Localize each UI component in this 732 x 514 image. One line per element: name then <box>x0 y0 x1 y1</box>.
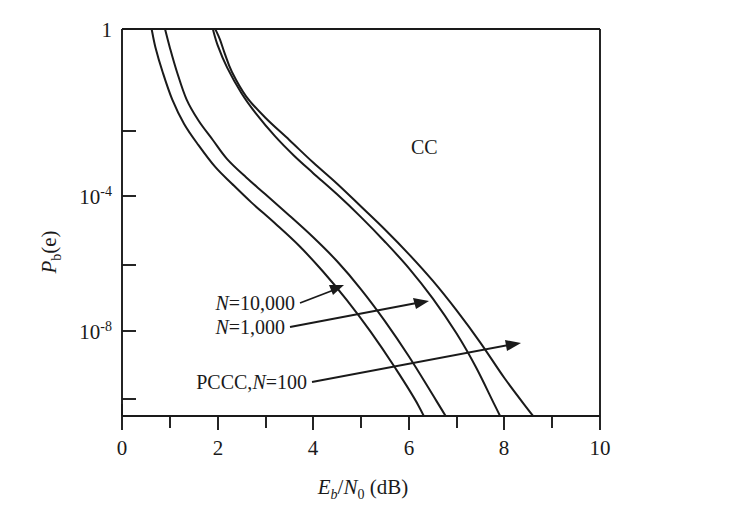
chart-canvas: 1 10-4 10-8 Pb(e) <box>0 0 732 514</box>
y-tick-label-1e-8: 10-8 <box>79 319 112 344</box>
curve-pccc-n-1-000 <box>165 29 485 486</box>
curve-label-cc: CC <box>411 136 438 158</box>
x-tick-label-4: 4 <box>308 436 319 460</box>
x-tick-label-6: 6 <box>404 436 415 460</box>
y-axis-title-group: Pb(e) <box>37 230 64 274</box>
curve-label-n-1000: N=1,000 <box>214 316 285 338</box>
arrowhead-n-1000 <box>413 298 429 309</box>
x-tick-label-8: 8 <box>499 436 510 460</box>
curve-pccc-n-10-000 <box>152 29 459 497</box>
leader-n-10000 <box>300 285 344 303</box>
y-axis-ticks <box>122 29 136 399</box>
annotation-leaders <box>290 285 521 382</box>
x-axis-title: Eb/N0 (dB) <box>317 475 408 502</box>
leader-n-1000 <box>290 298 429 327</box>
leader-pccc-n-100 <box>312 340 521 382</box>
x-axis-ticks <box>122 404 600 430</box>
x-tick-label-10: 10 <box>590 436 611 460</box>
x-tick-label-0: 0 <box>117 436 128 460</box>
x-tick-label-2: 2 <box>213 436 224 460</box>
bit-error-rate-chart: 1 10-4 10-8 Pb(e) <box>0 0 732 514</box>
y-tick-labels: 1 10-4 10-8 <box>79 18 112 344</box>
arrowhead-pccc-n-100 <box>505 340 521 351</box>
curve-label-n-10000: N=10,000 <box>214 292 295 314</box>
y-tick-label-1: 1 <box>102 18 113 42</box>
y-tick-label-1e-4: 10-4 <box>79 184 112 209</box>
x-tick-labels: 0 2 4 6 8 10 <box>117 436 611 460</box>
y-axis-title: Pb(e) <box>37 230 64 274</box>
curve-label-pccc-n-100: PCCC,N=100 <box>196 371 307 393</box>
plot-frame <box>122 29 600 416</box>
